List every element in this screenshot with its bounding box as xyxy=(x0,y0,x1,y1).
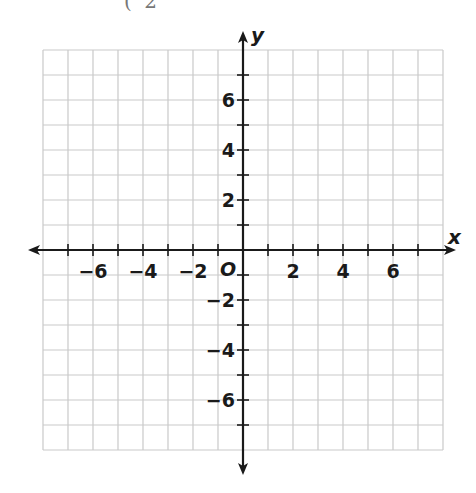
y-tick-label: −4 xyxy=(206,339,235,361)
x-tick-label: −4 xyxy=(128,260,157,282)
y-tick-label: −6 xyxy=(206,389,235,411)
x-axis-label: x xyxy=(447,225,462,249)
y-tick-label: −2 xyxy=(206,289,235,311)
y-tick-label: 6 xyxy=(222,89,235,111)
y-tick-label: 2 xyxy=(222,189,235,211)
x-tick-label: 4 xyxy=(336,260,349,282)
x-tick-label: 2 xyxy=(286,260,299,282)
y-axis-label: y xyxy=(251,23,265,47)
x-tick-label: 6 xyxy=(386,260,399,282)
y-tick-label: 4 xyxy=(222,139,235,161)
x-tick-label: −6 xyxy=(78,260,107,282)
origin-label: O xyxy=(220,258,236,280)
x-tick-label: −2 xyxy=(178,260,207,282)
coordinate-plane: −6−4−2246642−2−4−6 x y O xyxy=(0,0,476,493)
